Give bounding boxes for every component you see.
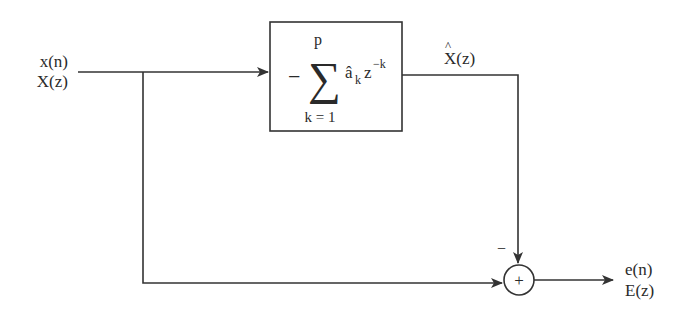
summer-plus-icon: + bbox=[514, 271, 524, 290]
coefficient-subscript: k bbox=[355, 73, 361, 87]
z-exponent: −k bbox=[373, 57, 386, 71]
input-time-label: x(n) bbox=[40, 52, 68, 71]
input-z-label: X(z) bbox=[37, 72, 68, 91]
coefficient-a-hat: â bbox=[345, 63, 353, 82]
prediction-to-summer-arrow bbox=[402, 75, 518, 263]
prediction-hat: ^ bbox=[445, 38, 451, 53]
summer-minus-sign: − bbox=[497, 240, 506, 257]
z-term: z bbox=[364, 63, 372, 82]
sum-lower-limit: k = 1 bbox=[305, 109, 336, 125]
predictor-minus-sign: − bbox=[288, 64, 300, 89]
output-z-label: E(z) bbox=[625, 281, 654, 300]
output-time-label: e(n) bbox=[625, 260, 652, 279]
summation-symbol: ∑ bbox=[308, 53, 341, 104]
block-diagram: x(n) X(z) − ∑ p k = 1 â k z −k X(z) ^ − … bbox=[0, 0, 683, 319]
sum-upper-limit: p bbox=[314, 31, 322, 49]
